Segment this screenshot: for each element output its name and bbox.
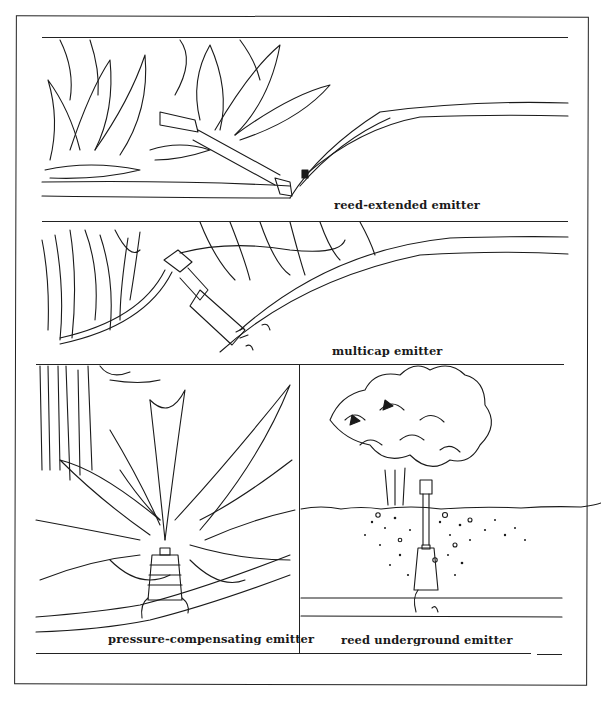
reed-underground-illustration xyxy=(301,366,601,617)
pressure-compensating-illustration xyxy=(36,366,295,632)
caption-reed-extended-emitter: reed-extended emitter xyxy=(334,198,480,212)
reed-extended-illustration xyxy=(42,40,568,198)
illustration-layer xyxy=(0,0,601,705)
caption-pressure-compensating-emitter: pressure-compensating emitter xyxy=(108,632,314,646)
caption-multicap-emitter: multicap emitter xyxy=(332,344,443,358)
caption-reed-underground-emitter: reed underground emitter xyxy=(341,633,513,647)
multicap-illustration xyxy=(42,222,568,352)
